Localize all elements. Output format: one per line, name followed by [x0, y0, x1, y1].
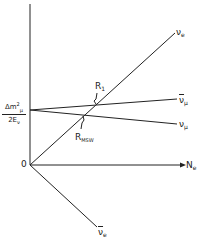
nubar-e-line [30, 165, 97, 227]
nubar-e-label: νe [98, 228, 107, 239]
x-axis-label: Ne [186, 161, 196, 172]
nubar-mu-label: νμ [179, 96, 188, 107]
nu-mu-line [30, 110, 177, 124]
nu-mu-label: νμ [179, 120, 188, 131]
y-axis-label: Δm2μ 2Eν [2, 101, 26, 125]
r1-arrow [94, 93, 97, 104]
nubar-mu-line [30, 99, 177, 110]
nu-e-line [30, 33, 175, 165]
nu-e-label: νe [176, 28, 185, 39]
diagram-canvas [0, 0, 203, 243]
r-msw-label: RMSW [75, 133, 94, 145]
origin-label: 0 [21, 160, 27, 169]
r1-label: R1 [95, 82, 105, 93]
